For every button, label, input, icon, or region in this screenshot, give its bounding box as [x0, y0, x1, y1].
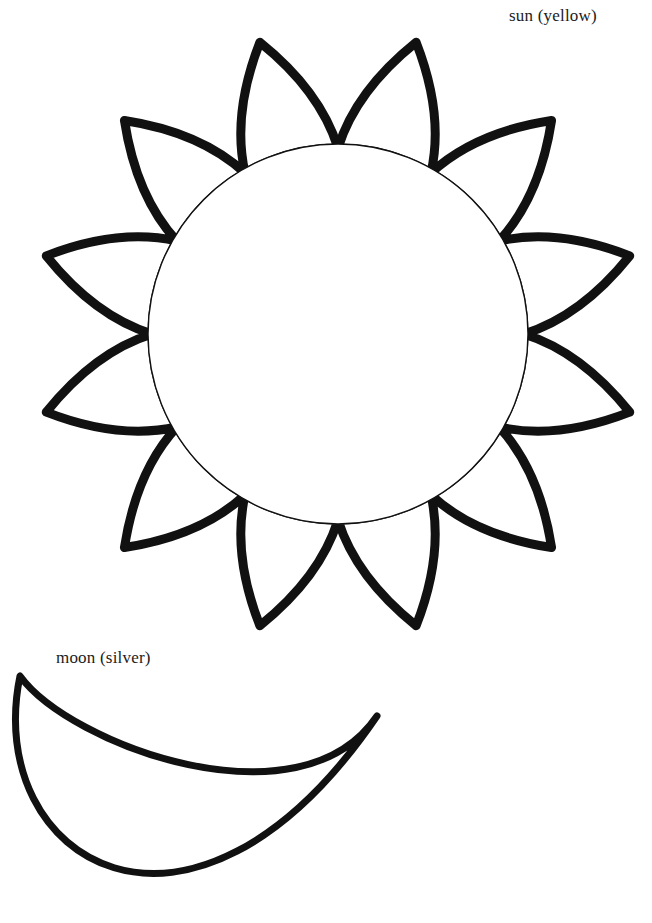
moon-label: moon (silver)	[56, 649, 151, 666]
craft-template-canvas	[0, 0, 652, 923]
craft-template-page: sun (yellow) moon (silver)	[0, 0, 652, 923]
sun-label: sun (yellow)	[509, 7, 597, 24]
sun-inner-circle	[148, 144, 528, 524]
